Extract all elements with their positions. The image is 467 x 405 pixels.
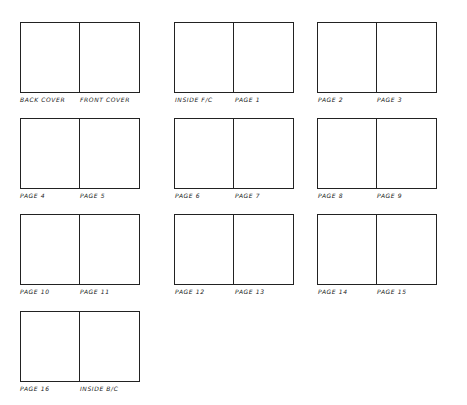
spread-page14-15 [317, 214, 437, 285]
label-right: PAGE 9 [377, 192, 402, 199]
label-left: PAGE 4 [20, 192, 45, 199]
spread-page10-11 [20, 214, 140, 285]
label-right: PAGE 15 [377, 288, 407, 295]
fold-line [79, 312, 80, 381]
label-left: BACK COVER [20, 96, 65, 103]
spread-page8-9 [317, 118, 437, 189]
spread-page4-5 [20, 118, 140, 189]
spread-page2-3 [317, 22, 437, 93]
label-left: PAGE 14 [318, 288, 348, 295]
fold-line [79, 23, 80, 92]
spread-page16-inside-bc [20, 311, 140, 382]
label-left: INSIDE F/C [175, 96, 213, 103]
label-left: PAGE 8 [318, 192, 343, 199]
label-left: PAGE 12 [175, 288, 205, 295]
label-right: PAGE 3 [377, 96, 402, 103]
label-right: PAGE 5 [80, 192, 105, 199]
fold-line [233, 119, 234, 188]
fold-line [376, 23, 377, 92]
label-right: FRONT COVER [80, 96, 130, 103]
label-right: PAGE 13 [235, 288, 265, 295]
label-left: PAGE 16 [20, 385, 50, 392]
spread-covers [20, 22, 140, 93]
fold-line [376, 119, 377, 188]
label-right: PAGE 11 [80, 288, 110, 295]
label-left: PAGE 6 [175, 192, 200, 199]
fold-line [233, 23, 234, 92]
fold-line [79, 215, 80, 284]
label-left: PAGE 2 [318, 96, 343, 103]
fold-line [233, 215, 234, 284]
fold-line [376, 215, 377, 284]
label-right: PAGE 1 [235, 96, 260, 103]
label-right: INSIDE B/C [80, 385, 118, 392]
label-right: PAGE 7 [235, 192, 260, 199]
label-left: PAGE 10 [20, 288, 50, 295]
fold-line [79, 119, 80, 188]
spread-page6-7 [174, 118, 294, 189]
spread-page12-13 [174, 214, 294, 285]
spread-inside-fc-page1 [174, 22, 294, 93]
